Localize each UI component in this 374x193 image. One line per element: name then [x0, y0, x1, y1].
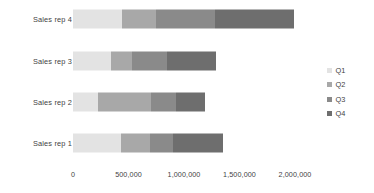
- bar-row: Sales rep 2: [0, 83, 374, 122]
- bar-segment-q2: [122, 10, 156, 29]
- stacked-bar-chart: Sales rep 4Sales rep 3Sales rep 2Sales r…: [0, 0, 374, 193]
- bar-segment-q3: [156, 10, 215, 29]
- bar-segment-q4: [215, 10, 294, 29]
- bar-segment-q3: [151, 92, 176, 111]
- legend-item-q1[interactable]: Q1: [327, 63, 374, 78]
- legend-swatch-icon: [327, 111, 332, 116]
- bar-segment-q4: [173, 134, 223, 153]
- category-label: Sales rep 4: [0, 15, 72, 24]
- bar-segment-q4: [167, 51, 216, 70]
- bar-row: Sales rep 3: [0, 41, 374, 80]
- bar-segment-q2: [111, 51, 133, 70]
- plot-area: Sales rep 4Sales rep 3Sales rep 2Sales r…: [0, 0, 374, 165]
- legend-label: Q2: [336, 80, 346, 89]
- legend-label: Q3: [336, 95, 346, 104]
- bar-row: Sales rep 4: [0, 0, 374, 39]
- legend-item-q3[interactable]: Q3: [327, 92, 374, 107]
- stacked-bar: [73, 134, 374, 153]
- legend-swatch-icon: [327, 82, 332, 87]
- bar-segment-q2: [121, 134, 150, 153]
- x-tick-label: 2,000,000: [279, 170, 312, 179]
- bar-row: Sales rep 1: [0, 124, 374, 163]
- x-axis: 0500,0001,000,0001,500,0002,000,000: [0, 165, 374, 193]
- chart-legend: Q1Q2Q3Q4: [327, 63, 374, 121]
- category-label: Sales rep 3: [0, 56, 72, 65]
- x-tick-label: 1,000,000: [168, 170, 201, 179]
- legend-item-q2[interactable]: Q2: [327, 78, 374, 93]
- bar-segment-q4: [176, 92, 205, 111]
- x-tick-label: 500,000: [115, 170, 142, 179]
- bar-segment-q1: [73, 134, 121, 153]
- category-label: Sales rep 1: [0, 139, 72, 148]
- bar-segment-q3: [150, 134, 173, 153]
- bar-segment-q3: [132, 51, 166, 70]
- bar-segment-q1: [73, 51, 111, 70]
- legend-item-q4[interactable]: Q4: [327, 107, 374, 122]
- x-tick-label: 1,500,000: [223, 170, 256, 179]
- x-tick-label: 0: [71, 170, 75, 179]
- legend-swatch-icon: [327, 97, 332, 102]
- bar-segment-q2: [98, 92, 150, 111]
- stacked-bar: [73, 10, 374, 29]
- bar-segment-q1: [73, 92, 98, 111]
- legend-swatch-icon: [327, 68, 332, 73]
- category-label: Sales rep 2: [0, 97, 72, 106]
- bar-segment-q1: [73, 10, 122, 29]
- legend-label: Q4: [336, 109, 346, 118]
- legend-label: Q1: [336, 66, 346, 75]
